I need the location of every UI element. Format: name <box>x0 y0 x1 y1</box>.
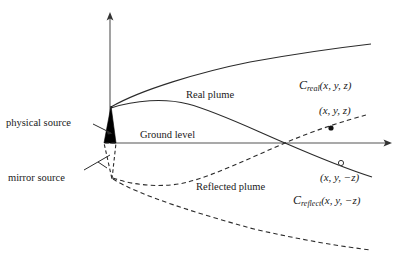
real-plume-label: Real plume <box>186 90 234 101</box>
reflect-point-marker <box>338 160 343 165</box>
c-real-subscript: real <box>307 84 320 93</box>
physical-source-label: physical source <box>6 118 71 129</box>
c-real-arguments: (x, y, z) <box>320 79 352 91</box>
plume-diagram-figure: physical source mirror source Ground lev… <box>0 0 405 262</box>
real-point-coordinates: (x, y, z) <box>319 105 351 116</box>
diagram-canvas <box>0 0 405 262</box>
real-point-marker <box>328 125 333 130</box>
c-reflect-arguments: (x, y, −z) <box>321 194 360 206</box>
physical-source-stack <box>104 106 116 143</box>
c-real-formula: Creal(x, y, z) <box>299 79 351 93</box>
mirror-source-stack <box>104 143 116 179</box>
c-reflect-subscript: reflect <box>301 199 321 208</box>
c-real-symbol: C <box>299 78 307 92</box>
ground-level-label: Ground level <box>140 130 195 141</box>
reflected-plume-label: Reflected plume <box>196 182 265 193</box>
reflect-point-coordinates: (x, y, −z) <box>320 172 359 183</box>
mirror-source-leader-branch <box>98 162 107 168</box>
mirror-source-label: mirror source <box>8 173 65 184</box>
real-plume-upper-boundary <box>111 44 371 107</box>
c-reflect-formula: Creflect(x, y, −z) <box>293 194 360 208</box>
c-reflect-symbol: C <box>293 193 301 207</box>
